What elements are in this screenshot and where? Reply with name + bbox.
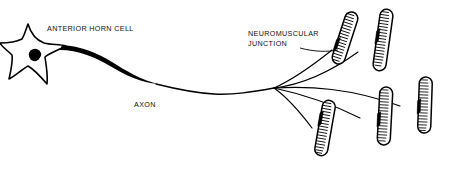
muscle-fiber-3-junction-plate [417,99,421,114]
muscle-fiber-5-body [314,99,337,156]
neuromuscular-diagram: ANTERIOR HORN CELL AXON NEUROMUSCULAR JU… [0,0,449,169]
neuromuscular-junction-label-line2: JUNCTION [248,39,287,48]
anterior-horn-cell-soma [0,24,66,84]
axon-distal [156,84,274,94]
terminal-branch-5 [274,88,312,128]
axon-fiber [60,45,274,94]
muscle-fiber-3 [417,77,433,133]
diagram-canvas: ANTERIOR HORN CELL AXON NEUROMUSCULAR JU… [0,0,449,169]
muscle-fiber-5 [313,99,337,157]
anterior-horn-cell-label: ANTERIOR HORN CELL [47,24,134,33]
terminal-branch-4 [274,88,360,118]
neuromuscular-junction-label-line1: NEUROMUSCULAR [248,29,319,38]
muscle-fiber-4-junction-plate [377,112,381,127]
muscle-fiber-2 [371,8,393,71]
muscle-fiber-1 [330,10,360,66]
axon-hillock [60,45,158,84]
axon-label: AXON [134,100,156,109]
terminal-branch-1 [274,50,332,88]
muscle-fiber-4 [376,87,393,146]
